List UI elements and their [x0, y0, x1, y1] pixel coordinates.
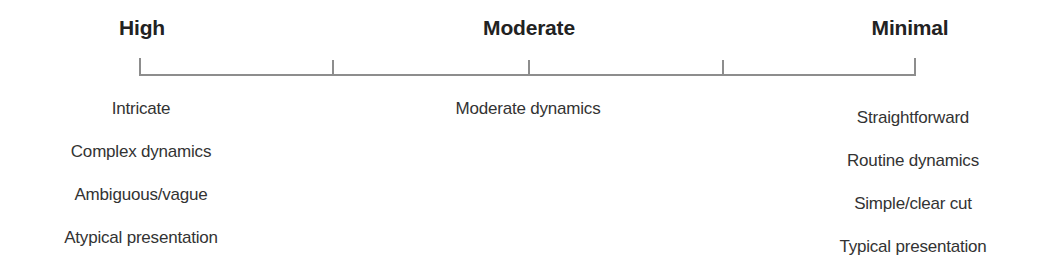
- level-heading-moderate: Moderate: [483, 15, 575, 41]
- descriptor-list-minimal: Straightforward Routine dynamics Simple/…: [839, 96, 986, 268]
- descriptor-item: Straightforward: [839, 96, 986, 139]
- descriptor-list-high: Intricate Complex dynamics Ambiguous/vag…: [64, 87, 218, 259]
- descriptor-item: Atypical presentation: [64, 216, 218, 259]
- descriptor-item: Simple/clear cut: [839, 182, 986, 225]
- scale-tick-1: [332, 60, 334, 76]
- level-heading-minimal: Minimal: [872, 15, 949, 41]
- descriptor-list-moderate: Moderate dynamics: [456, 87, 601, 130]
- descriptor-item: Ambiguous/vague: [64, 173, 218, 216]
- descriptor-item: Typical presentation: [839, 225, 986, 268]
- descriptor-item: Intricate: [64, 87, 218, 130]
- descriptor-item: Routine dynamics: [839, 139, 986, 182]
- scale-tick-left-end: [139, 58, 141, 76]
- level-heading-high: High: [119, 15, 165, 41]
- scale-tick-3: [722, 60, 724, 76]
- descriptor-item: Moderate dynamics: [456, 87, 601, 130]
- scale-tick-right-end: [914, 58, 916, 76]
- scale-tick-center: [528, 60, 530, 76]
- descriptor-item: Complex dynamics: [64, 130, 218, 173]
